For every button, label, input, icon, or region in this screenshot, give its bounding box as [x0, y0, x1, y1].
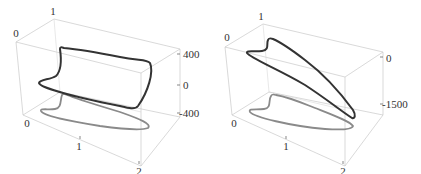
bounding-box — [225, 24, 383, 166]
z-tick-bot: -400 — [179, 107, 200, 119]
y-tick-1: 1 — [258, 10, 264, 22]
x-tick-0: 0 — [231, 117, 237, 129]
y-tick-1: 1 — [50, 5, 56, 17]
y-tick-0: 0 — [224, 31, 230, 43]
z-tick-top: 400 — [183, 48, 200, 60]
x-tick-2: 2 — [136, 165, 142, 174]
axis-ticks — [286, 57, 383, 164]
z-tick-top: 0 — [386, 52, 392, 64]
x-tick-1: 1 — [76, 140, 82, 152]
plot-left-svg: 0 1 400 0 -400 0 1 2 — [0, 0, 210, 174]
bounding-box — [16, 19, 180, 166]
plot-right: 0 1 0 -1500 0 1 2 — [210, 0, 421, 174]
x-tick-0: 0 — [24, 117, 30, 129]
y-tick-0: 0 — [13, 27, 19, 39]
z-tick-bot: -1500 — [382, 98, 408, 110]
x-tick-1: 1 — [283, 140, 289, 152]
x-tick-2: 2 — [340, 165, 346, 174]
plot-left: 0 1 400 0 -400 0 1 2 — [0, 0, 210, 174]
z-tick-mid: 0 — [183, 79, 189, 91]
plot-right-svg: 0 1 0 -1500 0 1 2 — [210, 0, 421, 174]
